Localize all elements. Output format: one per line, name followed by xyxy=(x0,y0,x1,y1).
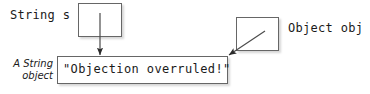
annotation-line-1: A String xyxy=(0,58,53,70)
object-obj-reference-box xyxy=(236,17,279,51)
diagram-canvas: String s Object obj A String object "Obj… xyxy=(0,0,370,94)
label-string-s: String s xyxy=(10,8,70,22)
annotation-a-string-object: A String object xyxy=(0,58,53,82)
label-object-obj: Object obj xyxy=(288,21,363,35)
string-object-value: "Objection overruled!" xyxy=(63,62,231,76)
string-s-reference-box xyxy=(78,3,122,37)
annotation-line-2: object xyxy=(0,70,53,82)
